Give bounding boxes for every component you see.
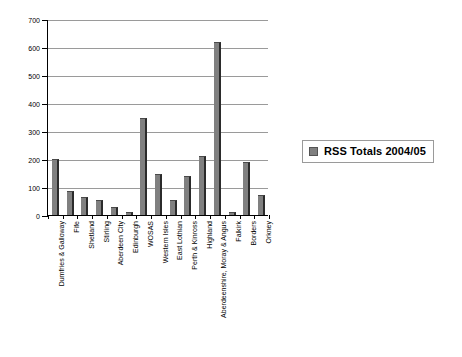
y-axis-tick-label: 100 [28,185,40,192]
y-axis-tick-label: 600 [28,45,40,52]
x-axis-tick [136,215,137,219]
x-axis-tick [166,215,167,219]
x-axis-tick [107,215,108,219]
x-axis-tick-label: Fife [73,221,80,233]
x-axis-tick-label: Highland [206,221,213,249]
x-axis-tick [48,215,49,219]
y-axis-tick-label: 300 [28,129,40,136]
x-axis-tick-label: Borders [250,221,257,246]
y-axis-tick-label: 700 [28,17,40,24]
x-axis-tick-label: Orkney [265,221,272,244]
legend-label: RSS Totals 2004/05 [324,145,426,157]
legend-swatch-icon [309,147,318,156]
x-axis-labels: Dumfries & GallowayFifeShetlandStirlingA… [48,20,268,215]
x-axis-tick [151,215,152,219]
x-axis-tick-label: Western Isles [162,221,169,263]
x-axis-tick [254,215,255,219]
x-axis-tick-label: Perth & Kinross [191,221,198,270]
x-axis-tick-label: Dumfries & Galloway [58,221,65,286]
x-axis-tick-label: Shetland [88,221,95,249]
x-axis-tick-label: Falkirk [235,221,242,242]
x-axis-tick [240,215,241,219]
x-axis-tick-label: Aberdeenshire, Moray & Angus [220,221,227,318]
x-axis-tick [122,215,123,219]
x-axis-tick-label: WOSAS [147,221,154,247]
x-axis-tick [181,215,182,219]
x-axis-tick-label: East Lothian [176,221,183,260]
x-axis-tick [225,215,226,219]
x-axis-tick-label: Aberdeen City [117,221,124,265]
y-axis-tick-label: 500 [28,73,40,80]
plot-area: 0100200300400500600700 Dumfries & Gallow… [47,20,268,216]
bar-chart: 0100200300400500600700 Dumfries & Gallow… [0,0,462,357]
x-axis-tick-label: Stirling [103,221,110,242]
chart-legend: RSS Totals 2004/05 [302,140,434,163]
x-axis-tick [269,215,270,219]
y-axis-tick-label: 0 [36,213,40,220]
x-axis-tick [210,215,211,219]
y-axis-tick-label: 400 [28,101,40,108]
x-axis-tick [92,215,93,219]
x-axis-tick [195,215,196,219]
y-axis-tick-label: 200 [28,157,40,164]
x-axis-tick [77,215,78,219]
x-axis-tick [63,215,64,219]
x-axis-tick-label: Edinburgh [132,221,139,253]
